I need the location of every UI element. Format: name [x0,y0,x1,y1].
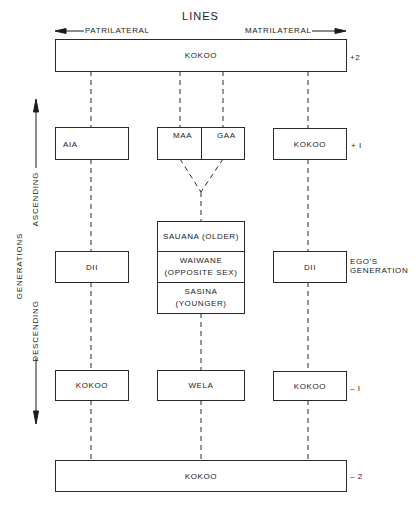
band-minus2: KOKOO [55,460,347,492]
egos-marker-line2: GENERATION [350,266,408,275]
matrilateral-label: MATRILATERAL [245,26,311,35]
kokoo-minus1-left-label: KOKOO [76,381,108,390]
dashed-connector [180,159,201,192]
ascending-label: ASCENDING [31,167,41,231]
kokoo-plus1-label: KOKOO [294,140,326,149]
egos-marker-line1: EGO'S [350,257,408,266]
aia-label: AIA [63,140,78,149]
box-kokoo-minus1-right: KOKOO [273,371,347,401]
lines-title: LINES [0,10,401,22]
sauana-label: SAUANA (OLDER) [163,231,239,243]
waiwane-label: WAIWANE [180,255,223,267]
maa-gaa-divider [201,128,202,159]
generations-label: GENERATIONS [15,231,25,301]
dii-right-label: DII [304,263,316,272]
wela-label: WELA [188,381,213,390]
egos-generation-marker: EGO'S GENERATION [350,257,408,275]
box-aia: AIA [55,127,129,160]
kokoo-minus1-right-label: KOKOO [294,382,326,391]
plus2-band-label: KOKOO [185,51,217,60]
dii-left-label: DII [86,263,98,272]
box-dii-right: DII [273,251,347,283]
minus2-band-label: KOKOO [185,472,217,481]
box-sibling-stack: SAUANA (OLDER) WAIWANE (OPPOSITE SEX) SA… [157,221,245,314]
cell-sasina: SASINA (YOUNGER) [158,283,244,313]
arrow-up-icon [34,99,39,112]
box-dii-left: DII [55,251,129,283]
box-wela: WELA [157,370,245,401]
dashed-connector [201,159,223,192]
arrow-right-icon [335,29,346,34]
arrow-down-icon [34,411,39,424]
gaa-label: GAA [217,131,236,140]
patrilateral-label: PATRILATERAL [85,26,150,35]
generation-marker-plus2: +2 [350,53,360,62]
box-maa-gaa: MAA GAA [157,127,245,160]
maa-label: MAA [173,131,192,140]
descending-label: DESCENDING [31,295,41,367]
band-plus2: KOKOO [55,39,347,72]
waiwane-sublabel: (OPPOSITE SEX) [165,267,238,279]
box-kokoo-plus1: KOKOO [273,128,347,160]
sasina-sublabel: (YOUNGER) [175,298,226,310]
generation-marker-minus2: – 2 [350,472,363,481]
cell-sauana: SAUANA (OLDER) [158,222,244,252]
cell-waiwane: WAIWANE (OPPOSITE SEX) [158,252,244,283]
arrow-left-icon [55,29,66,34]
box-kokoo-minus1-left: KOKOO [55,370,129,401]
sasina-label: SASINA [185,286,218,298]
generation-marker-minus1: – I [350,384,361,393]
generation-marker-plus1: + I [351,141,362,150]
